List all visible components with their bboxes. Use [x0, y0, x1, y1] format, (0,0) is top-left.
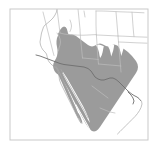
map-canvas	[0, 0, 158, 149]
range-map-figure	[0, 0, 158, 149]
